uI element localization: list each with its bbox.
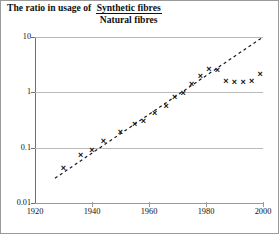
- data-point-marker: ×: [76, 151, 85, 160]
- chart-title-lead: The ratio in usage of: [7, 2, 94, 13]
- x-tick-label: 1980: [198, 207, 215, 216]
- data-point-marker: ×: [116, 128, 125, 137]
- data-point-marker: ×: [139, 117, 148, 126]
- chart-title-denominator: Natural fibres: [99, 14, 159, 25]
- data-point-marker: ×: [256, 70, 265, 79]
- chart-title-fraction: Synthetic fibres Natural fibres: [96, 2, 162, 25]
- data-point-marker: ×: [162, 102, 171, 111]
- data-points: ××××××××××××××××××××: [35, 37, 263, 203]
- data-point-marker: ×: [59, 164, 68, 173]
- data-point-marker: ×: [99, 137, 108, 146]
- data-point-marker: ×: [150, 109, 159, 118]
- chart-title-numerator: Synthetic fibres: [96, 2, 162, 14]
- y-tick: [31, 203, 35, 204]
- data-point-marker: ×: [179, 89, 188, 98]
- x-tick-label: 2000: [255, 207, 272, 216]
- y-tick-label: 10: [23, 33, 31, 41]
- x-tick-label: 1960: [141, 207, 158, 216]
- x-tick-label: 1940: [84, 207, 101, 216]
- y-tick-label: 1: [27, 88, 31, 96]
- chart-figure: The ratio in usage of Synthetic fibres N…: [0, 0, 279, 234]
- x-tick-label: 1920: [27, 207, 44, 216]
- plot-area: 1010.10.01 19201940196019802000 ××××××××…: [35, 37, 263, 203]
- y-tick-label: 0.1: [21, 144, 31, 152]
- data-point-marker: ×: [213, 66, 222, 75]
- y-tick-label: 0.01: [17, 199, 31, 207]
- chart-title: The ratio in usage of Synthetic fibres N…: [7, 2, 275, 25]
- data-point-marker: ×: [88, 146, 97, 155]
